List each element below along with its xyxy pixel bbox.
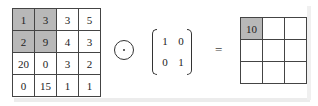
right-bracket — [187, 29, 192, 75]
output-cell: 10 — [241, 18, 263, 40]
input-cell: 0 — [13, 75, 35, 97]
matrix-row — [241, 62, 307, 84]
input-cell: 20 — [13, 53, 35, 75]
input-cell: 5 — [79, 9, 101, 31]
dot-glyph — [123, 49, 125, 51]
output-cell — [263, 40, 285, 62]
output-cell — [285, 62, 307, 84]
output-cell — [263, 18, 285, 40]
kernel-cell: 0 — [159, 56, 171, 68]
kernel-matrix: 1 0 0 1 — [152, 29, 192, 75]
input-cell: 3 — [79, 31, 101, 53]
elementwise-product-icon — [114, 40, 134, 60]
input-cell: 4 — [57, 31, 79, 53]
output-cell — [285, 40, 307, 62]
equals-sign: = — [215, 42, 222, 58]
input-matrix: 1 3 3 5 2 9 4 3 20 0 3 2 0 15 1 1 — [12, 8, 101, 97]
input-cell: 1 — [57, 75, 79, 97]
input-cell: 3 — [57, 9, 79, 31]
right-shadow — [307, 6, 311, 100]
matrix-row — [241, 40, 307, 62]
matrix-row: 0 15 1 1 — [13, 75, 101, 97]
input-cell: 1 — [79, 75, 101, 97]
matrix-row: 10 — [241, 18, 307, 40]
input-cell: 2 — [13, 31, 35, 53]
input-cell: 1 — [13, 9, 35, 31]
input-cell: 9 — [35, 31, 57, 53]
left-bracket — [152, 29, 157, 75]
input-cell: 3 — [35, 9, 57, 31]
matrix-row: 2 9 4 3 — [13, 31, 101, 53]
matrix-row: 1 3 3 5 — [13, 9, 101, 31]
output-cell — [241, 62, 263, 84]
matrix-row: 20 0 3 2 — [13, 53, 101, 75]
kernel-cell: 0 — [175, 35, 187, 47]
output-cell — [263, 62, 285, 84]
bottom-shadow — [14, 98, 310, 102]
input-cell: 3 — [57, 53, 79, 75]
output-cell — [241, 40, 263, 62]
kernel-cell: 1 — [175, 56, 187, 68]
input-cell: 15 — [35, 75, 57, 97]
output-cell — [285, 18, 307, 40]
output-matrix: 10 — [240, 17, 307, 84]
input-cell: 0 — [35, 53, 57, 75]
kernel-cell: 1 — [159, 35, 171, 47]
input-cell: 2 — [79, 53, 101, 75]
